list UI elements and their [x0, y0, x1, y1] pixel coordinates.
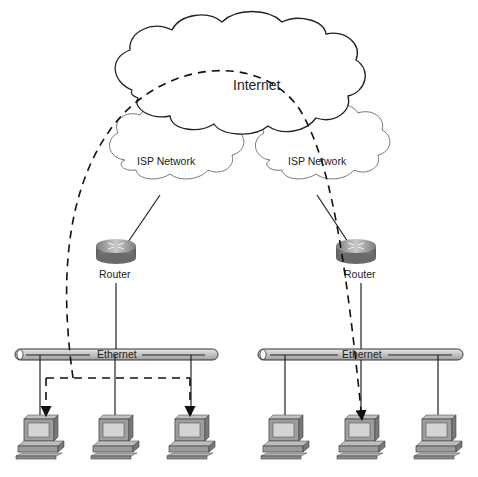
- router-left: [96, 239, 136, 264]
- link-isp-left-router: [126, 195, 160, 245]
- host-computer-right-1: [261, 415, 309, 459]
- ethernet-label-right: Ethernet: [342, 348, 382, 360]
- host-computer-left-1: [16, 415, 64, 459]
- link-isp-right-router: [317, 195, 350, 245]
- network-diagram: [0, 0, 478, 477]
- host-computer-right-3: [414, 415, 462, 459]
- internet-label: Internet: [233, 77, 280, 93]
- host-drop-lines: [40, 355, 438, 418]
- isp-network-label-left: ISP Network: [137, 155, 195, 167]
- host-computer-left-2: [91, 415, 139, 459]
- ethernet-label-left: Ethernet: [97, 348, 137, 360]
- router-label-left: Router: [99, 268, 131, 280]
- router-label-right: Router: [344, 268, 376, 280]
- host-computer-left-3: [167, 415, 215, 459]
- isp-network-label-right: ISP Network: [288, 155, 346, 167]
- host-computer-right-2: [337, 415, 385, 459]
- hosts: [16, 415, 462, 459]
